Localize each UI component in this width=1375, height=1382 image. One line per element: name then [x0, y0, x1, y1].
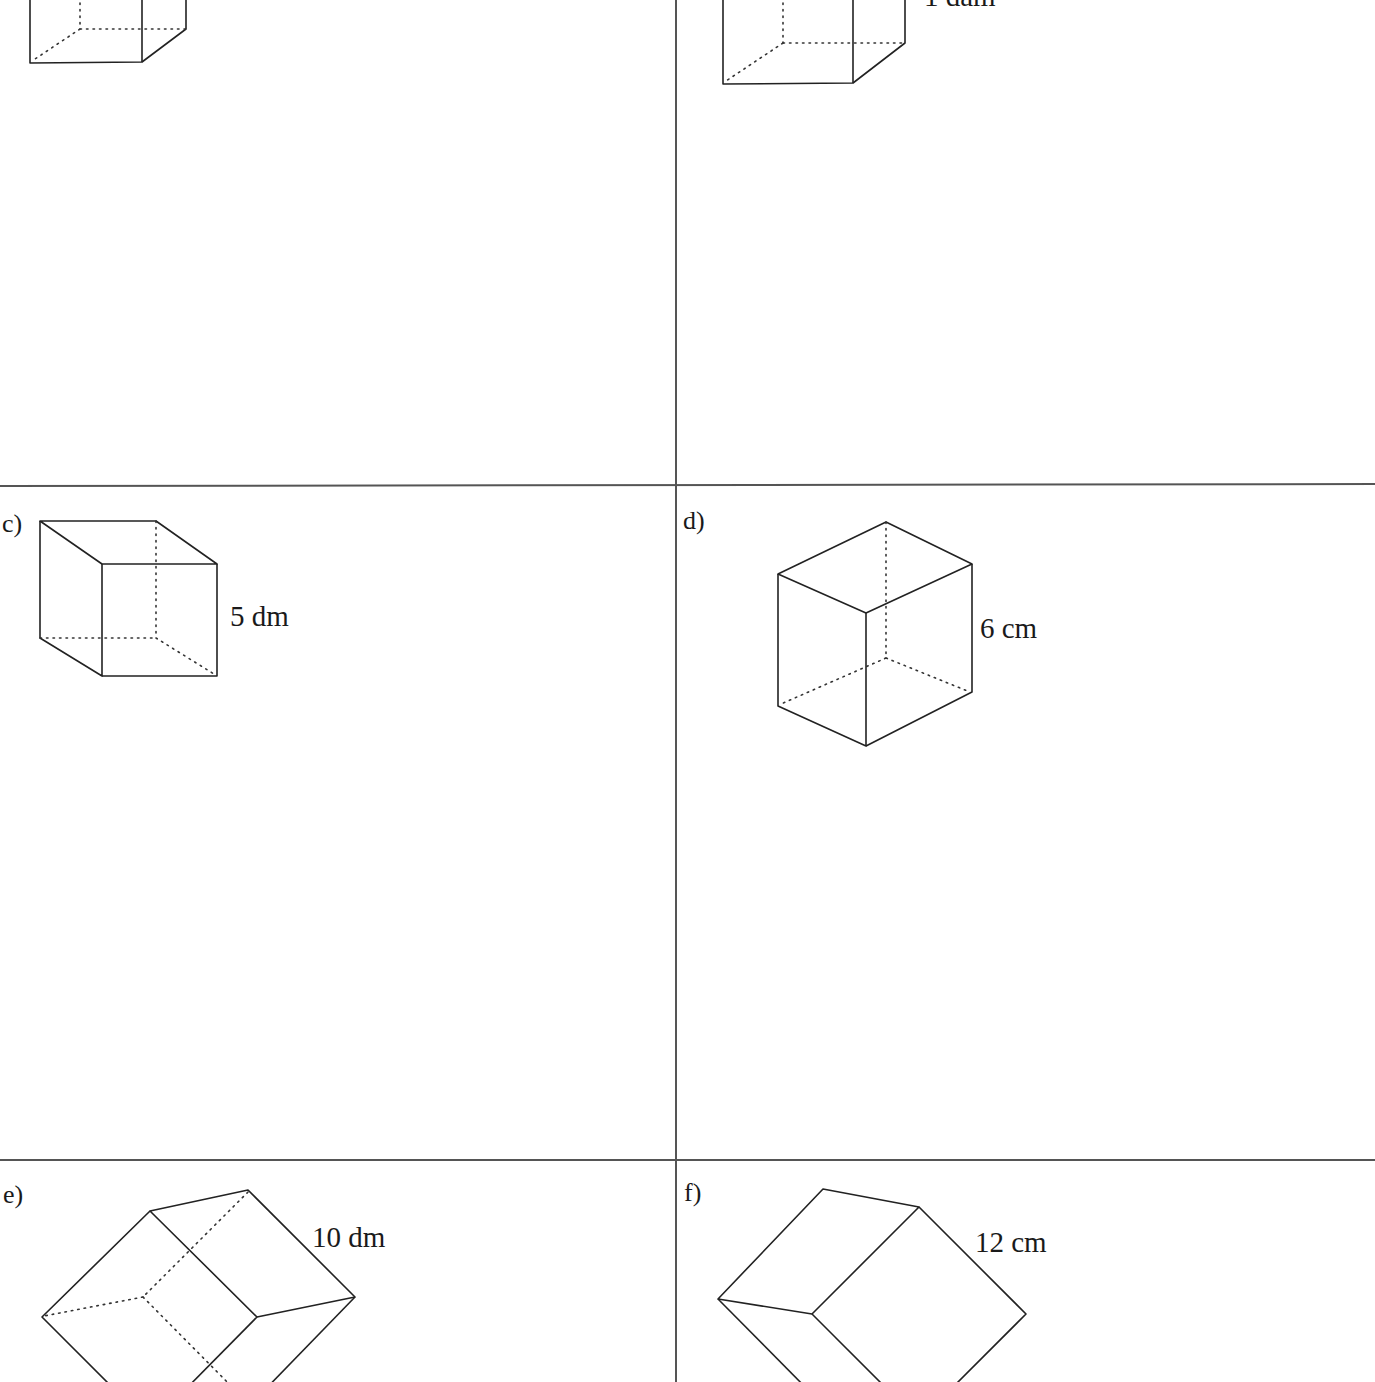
panel-label-c: c): [2, 509, 22, 539]
cube-e: [42, 1190, 355, 1382]
dimension-label-e: 10 dm: [312, 1221, 385, 1254]
cube-figures: [0, 0, 1375, 1382]
dimension-label-b: 1 dam: [924, 0, 996, 13]
dimension-label-c: 5 dm: [230, 600, 289, 633]
worksheet-page: 1 dam c) 5 dm d) 6 cm e) 10 dm f) 12 cm: [0, 0, 1375, 1382]
panel-label-f: f): [684, 1178, 701, 1208]
cube-f: [718, 1189, 1026, 1382]
dimension-label-f: 12 cm: [975, 1226, 1047, 1259]
cube-d: [778, 522, 972, 746]
dimension-label-d: 6 cm: [980, 612, 1037, 645]
cube-a: [30, 0, 186, 63]
cube-c: [40, 521, 217, 676]
panel-label-d: d): [683, 506, 705, 536]
cube-b: [723, 0, 905, 84]
panel-label-e: e): [3, 1180, 23, 1210]
